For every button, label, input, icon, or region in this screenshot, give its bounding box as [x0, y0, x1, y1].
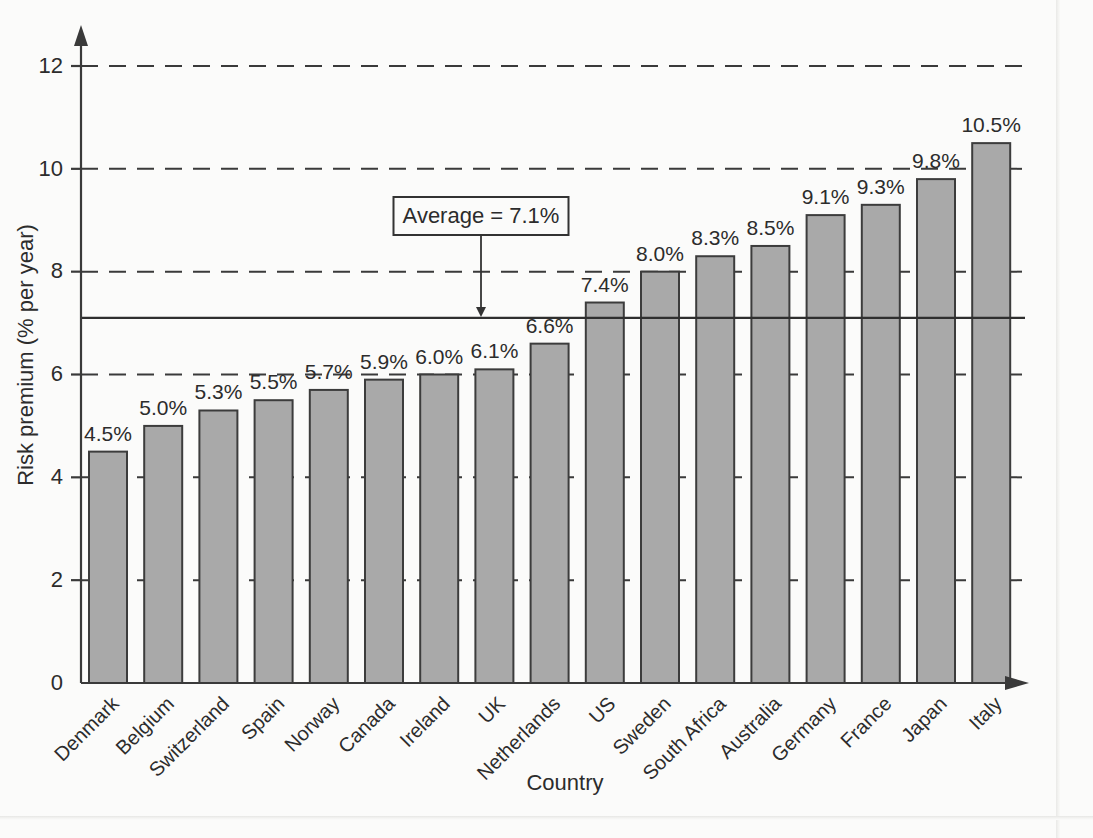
y-tick-label: 12 [39, 53, 63, 78]
bar-value-label: 5.3% [194, 380, 242, 403]
bar-value-label: 6.6% [526, 314, 574, 337]
bar-value-label: 7.4% [581, 273, 629, 296]
bar-value-label: 4.5% [84, 422, 132, 445]
category-label: France [836, 692, 896, 752]
bar-value-label: 9.3% [857, 175, 905, 198]
bar [641, 272, 679, 683]
bar [917, 179, 955, 683]
x-axis-title: Country [526, 770, 603, 795]
y-axis-title: Risk premium (% per year) [13, 224, 38, 486]
bar-value-label: 9.8% [912, 149, 960, 172]
category-label: Norway [280, 692, 343, 755]
bar [862, 205, 900, 683]
category-label: Canada [334, 692, 400, 758]
bar-value-label: 9.1% [802, 185, 850, 208]
y-tick-label: 8 [51, 258, 63, 283]
average-callout-group: Average = 7.1% [394, 197, 569, 317]
bar-value-label: 6.0% [415, 345, 463, 368]
bar-chart: 024681012 4.5%5.0%5.3%5.5%5.7%5.9%6.0%6.… [0, 0, 1093, 838]
bar-value-label: 5.0% [139, 396, 187, 419]
category-label: Ireland [395, 692, 454, 751]
bar [531, 344, 569, 683]
average-callout-arrowhead [476, 307, 486, 317]
bar-value-label: 6.1% [470, 339, 518, 362]
bar [310, 390, 348, 683]
bar [751, 246, 789, 683]
x-axis-arrowhead [1005, 676, 1029, 690]
category-label: Italy [965, 692, 1006, 733]
category-label: UK [474, 692, 510, 728]
y-tick-label: 10 [39, 156, 63, 181]
category-label: Denmark [50, 692, 124, 766]
bar [89, 452, 127, 683]
bar [199, 410, 237, 683]
bar-value-label: 5.5% [250, 370, 298, 393]
average-callout-text: Average = 7.1% [403, 203, 560, 228]
bar [420, 375, 458, 684]
bar [972, 143, 1010, 683]
bar [144, 426, 182, 683]
y-tick-label: 2 [51, 567, 63, 592]
bar [475, 369, 513, 683]
y-axis-arrowhead [74, 25, 88, 46]
category-label: US [584, 692, 619, 727]
bar-value-label: 5.7% [305, 360, 353, 383]
figure-page: 024681012 4.5%5.0%5.3%5.5%5.7%5.9%6.0%6.… [0, 0, 1093, 838]
bar [586, 303, 624, 683]
y-tick-label: 4 [51, 464, 63, 489]
y-tick-label: 0 [51, 670, 63, 695]
bar [365, 380, 403, 683]
y-axis-ticks-group: 024681012 [39, 53, 81, 695]
bar [696, 256, 734, 683]
category-label: Spain [237, 692, 289, 744]
bar-value-label: 10.5% [961, 113, 1021, 136]
bar-value-label: 5.9% [360, 350, 408, 373]
bar-value-label: 8.5% [746, 216, 794, 239]
bar-value-label: 8.0% [636, 242, 684, 265]
y-tick-label: 6 [51, 361, 63, 386]
bar [807, 215, 845, 683]
bar [255, 400, 293, 683]
category-label: Japan [897, 692, 951, 746]
bar-value-label: 8.3% [691, 226, 739, 249]
